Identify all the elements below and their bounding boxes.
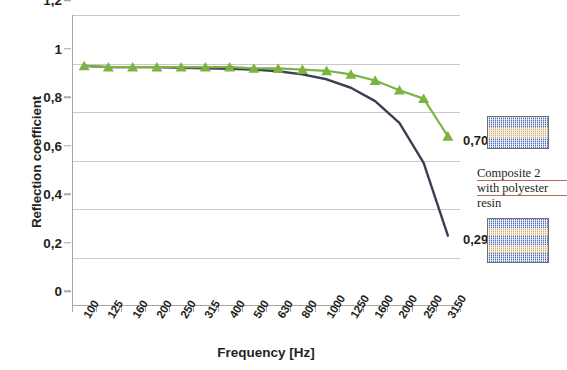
sample-layer-tan: [488, 127, 548, 137]
sample-layer-tan: [488, 245, 548, 254]
end-label-dark: 0,29: [463, 232, 488, 247]
x-tick-mark: [72, 306, 73, 312]
series-line-dark: [84, 66, 448, 236]
sample-3-layer: [487, 116, 549, 149]
series-markers-green: [79, 61, 454, 141]
series-marker-green: [442, 131, 453, 141]
sample-layer-blue: [488, 219, 548, 228]
caption-line-3: resin: [477, 196, 567, 210]
sample-5-layer: [487, 218, 549, 263]
sample-layer-blue: [488, 236, 548, 245]
sample-layer-blue: [488, 138, 548, 148]
series-line-green: [84, 66, 448, 136]
x-axis-title: Frequency [Hz]: [72, 345, 460, 360]
sample-caption: Composite 2 with polyester resin: [477, 166, 567, 210]
caption-line-1: Composite 2: [477, 166, 567, 181]
end-label-green: 0,70: [463, 133, 488, 148]
sample-layer-blue: [488, 253, 548, 262]
caption-line-2: with polyester: [477, 181, 567, 196]
sample-layer-tan: [488, 228, 548, 237]
sample-layer-blue: [488, 117, 548, 127]
